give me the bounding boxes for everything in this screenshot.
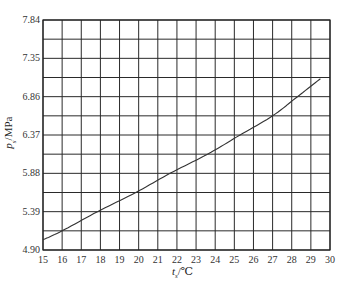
x-tick-label: 25 (224, 255, 244, 265)
x-tick-label: 26 (243, 255, 263, 265)
y-axis-label: ps/MPa (2, 117, 17, 149)
y-tick-label: 4.90 (2, 245, 40, 255)
grid-lines (43, 20, 330, 250)
y-axis-subscript: s (10, 140, 18, 143)
y-axis-variable: p (2, 143, 14, 149)
y-tick-label: 7.84 (2, 15, 40, 25)
x-axis-unit: /℃ (178, 265, 193, 277)
x-tick-label: 21 (148, 255, 168, 265)
chart-canvas (0, 0, 351, 290)
x-tick-label: 28 (282, 255, 302, 265)
x-tick-label: 18 (90, 255, 110, 265)
x-tick-label: 17 (71, 255, 91, 265)
y-tick-label: 5.88 (2, 168, 40, 178)
x-tick-label: 27 (263, 255, 283, 265)
x-tick-label: 29 (301, 255, 321, 265)
x-tick-label: 20 (129, 255, 149, 265)
x-tick-label: 24 (205, 255, 225, 265)
x-tick-label: 22 (167, 255, 187, 265)
x-tick-label: 15 (33, 255, 53, 265)
y-tick-label: 5.39 (2, 207, 40, 217)
x-tick-label: 16 (52, 255, 72, 265)
x-tick-label: 30 (320, 255, 340, 265)
x-axis-label: ts/℃ (172, 265, 193, 280)
x-tick-label: 23 (186, 255, 206, 265)
x-tick-label: 19 (110, 255, 130, 265)
y-axis-unit: /MPa (2, 117, 14, 141)
y-tick-label: 7.35 (2, 53, 40, 63)
y-tick-label: 6.86 (2, 92, 40, 102)
data-line (43, 79, 320, 240)
